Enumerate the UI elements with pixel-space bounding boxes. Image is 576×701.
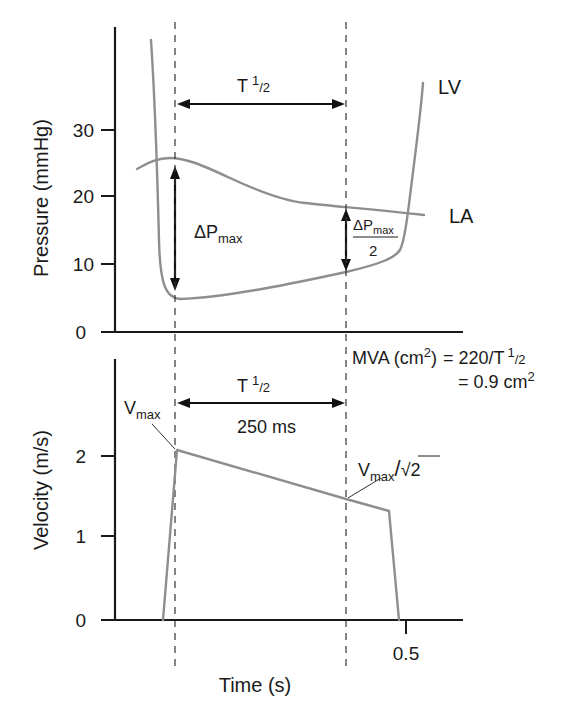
mva-result: = 0.9 cm2	[458, 369, 535, 392]
dp-half-denominator: 2	[369, 242, 377, 259]
vmax-sqrt2-leader-line	[348, 478, 381, 498]
velocity-tick-label-0: 0	[75, 610, 86, 631]
la-pressure-curve	[137, 158, 424, 215]
pressure-y-axis-label: Pressure (mmHg)	[30, 119, 52, 277]
mitral-stenosis-figure: 30 20 10 0 Pressure (mmHg) T1/2 ΔPmax ΔP…	[0, 0, 576, 701]
velocity-tick-label-1: 1	[75, 526, 86, 547]
pressure-tick-label-10: 10	[73, 254, 94, 275]
velocity-panel: 2 1 0 0.5 Velocity (m/s) Time (s) T1/2 2…	[30, 345, 535, 696]
arrowhead-right-icon	[332, 99, 345, 109]
vmax-leader-line	[152, 424, 175, 449]
pressure-tick-label-20: 20	[73, 186, 94, 207]
t-half-velocity-label: T1/2	[237, 373, 270, 396]
arrowhead-left-icon	[177, 398, 190, 408]
lv-label: LV	[438, 76, 462, 98]
velocity-tick-label-2: 2	[75, 446, 86, 467]
t-half-pressure-label: T1/2	[237, 73, 270, 96]
arrowhead-right-icon	[332, 398, 345, 408]
arrowhead-left-icon	[177, 99, 190, 109]
t-half-value-label: 250 ms	[237, 417, 296, 437]
pressure-tick-label-0: 0	[75, 322, 86, 343]
la-label: LA	[449, 205, 474, 227]
vmax-sqrt2-label: Vmax/√2	[358, 456, 421, 484]
dp-half-numerator: ΔPmax	[353, 216, 394, 236]
lv-pressure-curve	[151, 40, 423, 299]
chart-svg: 30 20 10 0 Pressure (mmHg) T1/2 ΔPmax ΔP…	[0, 0, 576, 701]
dp-max-label: ΔPmax	[194, 222, 243, 246]
velocity-y-axis-label: Velocity (m/s)	[30, 430, 52, 550]
time-x-axis-label: Time (s)	[219, 674, 292, 696]
time-tick-label-0.5: 0.5	[393, 643, 419, 664]
vmax-label: Vmax	[124, 398, 161, 422]
pressure-panel: 30 20 10 0 Pressure (mmHg) T1/2 ΔPmax ΔP…	[30, 27, 474, 343]
pressure-tick-label-30: 30	[73, 120, 94, 141]
mva-formula: MVA (cm2)= 220/T1/2	[352, 345, 526, 368]
